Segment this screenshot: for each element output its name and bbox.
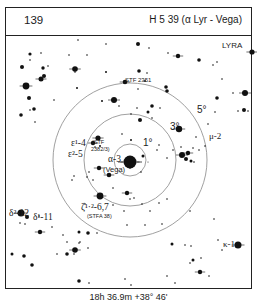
star	[96, 232, 98, 234]
star	[192, 259, 195, 262]
star-map: 1°3°5° α-3(Vega)STF 2351ε¹-4ε²-5(STF2382…	[0, 0, 257, 305]
label-mu: μ-2	[209, 131, 221, 141]
star	[29, 109, 31, 111]
star	[193, 161, 195, 163]
star	[192, 147, 194, 149]
star	[74, 71, 76, 73]
star	[166, 198, 168, 200]
star	[22, 254, 26, 258]
star	[42, 74, 46, 78]
label-stfa38: (STFA 38)	[87, 213, 112, 219]
star	[40, 52, 42, 54]
star	[213, 218, 215, 220]
label-delta2: δ²-12	[9, 208, 29, 218]
star	[216, 61, 218, 63]
star	[148, 47, 150, 49]
star	[146, 72, 148, 74]
star	[87, 247, 89, 249]
star	[208, 275, 210, 277]
star	[189, 210, 191, 212]
star	[11, 253, 14, 256]
star	[86, 54, 88, 56]
star	[166, 157, 168, 159]
star	[65, 252, 69, 256]
star	[141, 203, 143, 205]
star	[105, 43, 107, 45]
label-stf2382b: 2382/3)	[91, 146, 110, 152]
constellation-label: LYRA	[222, 41, 243, 50]
star	[88, 171, 90, 173]
star	[24, 223, 26, 225]
ring-label: 1°	[143, 137, 153, 148]
label-kappa: κ-1	[223, 239, 235, 249]
star	[221, 249, 223, 251]
star	[150, 104, 154, 108]
star	[88, 282, 90, 284]
star	[62, 234, 64, 236]
star	[32, 107, 36, 111]
star	[112, 187, 114, 189]
star	[166, 275, 168, 277]
star	[101, 100, 103, 102]
star	[232, 92, 234, 94]
label-zeta: ζ¹·²-6,7	[81, 202, 109, 213]
label-delta1: δ¹-11	[33, 212, 53, 222]
star	[198, 149, 200, 151]
star	[86, 231, 90, 235]
star	[19, 113, 23, 117]
star	[73, 175, 75, 177]
star	[34, 121, 36, 123]
star	[200, 257, 202, 259]
star	[51, 226, 53, 228]
star	[147, 111, 150, 114]
star	[27, 96, 31, 100]
star	[151, 117, 153, 119]
star	[20, 65, 24, 69]
star	[174, 282, 176, 284]
star	[137, 88, 139, 90]
star	[130, 284, 132, 286]
star	[73, 253, 75, 255]
star	[53, 99, 55, 101]
label-eps2: ε²-5	[68, 149, 83, 159]
star	[158, 202, 160, 204]
star	[171, 243, 174, 246]
star	[86, 176, 88, 178]
star	[112, 204, 114, 206]
star	[124, 278, 126, 280]
star	[148, 162, 149, 163]
star	[130, 139, 132, 141]
star	[159, 107, 161, 109]
star	[190, 245, 192, 247]
star	[242, 108, 246, 112]
star	[130, 113, 132, 115]
star	[217, 239, 219, 241]
star	[129, 198, 131, 200]
star	[47, 65, 49, 67]
star	[190, 160, 193, 163]
center-coordinates: 18h 36.9m +38° 46'	[0, 292, 257, 302]
ring-label: 5°	[197, 104, 207, 115]
star	[56, 253, 58, 255]
label-vega: (Vega)	[103, 165, 126, 174]
star	[195, 136, 197, 138]
star	[77, 279, 81, 283]
star	[214, 111, 216, 113]
star	[133, 197, 135, 199]
star	[212, 64, 214, 66]
label-eps1: ε¹-4	[71, 138, 86, 148]
star	[30, 263, 34, 267]
star	[164, 85, 168, 89]
star	[142, 155, 145, 158]
star	[215, 96, 219, 100]
star	[136, 107, 138, 109]
star	[197, 58, 201, 62]
star	[221, 78, 223, 80]
star	[172, 149, 174, 151]
star	[158, 144, 160, 146]
star	[180, 146, 182, 148]
star	[137, 69, 141, 73]
star	[207, 123, 209, 125]
star	[118, 105, 120, 107]
label-stf2351: STF 2351	[125, 77, 152, 83]
